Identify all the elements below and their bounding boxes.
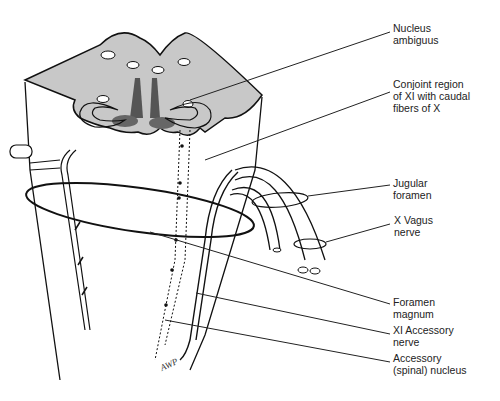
label-nucleus-ambiguus: Nucleusambiguus [393,22,439,46]
vagus-ring [294,239,326,249]
label-accessory-spinal-nucleus: Accessory(spinal) nucleus [393,352,467,376]
label-jugular-foramen: Jugularforamen [393,177,432,201]
medulla-cross-section [25,33,262,135]
artist-signature: AWP [158,356,180,373]
label-xi-accessory-nerve: XI Accessorynerve [393,324,454,348]
label-conjoint-region: Conjoint regionof XI with caudalfibers o… [393,78,470,114]
foramen-magnum-ring [23,172,257,248]
label-x-vagus-nerve: X Vagusnerve [394,214,433,238]
label-foramen-magnum: Foramenmagnum [393,296,435,320]
